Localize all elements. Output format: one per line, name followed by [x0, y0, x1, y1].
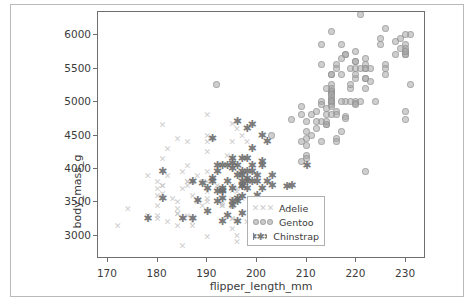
x-tick-label: 210 [296, 267, 316, 279]
data-point-chinstrap: ✱ [228, 197, 237, 206]
data-point-chinstrap: ✱ [228, 164, 237, 173]
data-point-gentoo [328, 95, 335, 102]
data-point-chinstrap: ✱ [228, 154, 237, 163]
data-point-gentoo [333, 111, 340, 118]
data-point-chinstrap: ✱ [258, 161, 267, 170]
data-point-adelie: ✕ [203, 233, 211, 241]
data-point-gentoo [303, 135, 310, 142]
legend-item-chinstrap[interactable]: ✱✱✱ Chinstrap [253, 229, 319, 243]
data-point-gentoo [402, 48, 409, 55]
data-point-adelie: ✕ [188, 222, 196, 230]
data-point-gentoo [323, 118, 330, 125]
data-point-gentoo [303, 118, 310, 125]
data-point-adelie: ✕ [228, 202, 236, 210]
data-point-adelie: ✕ [183, 138, 191, 146]
data-point-chinstrap: ✱ [248, 167, 257, 176]
data-point-chinstrap: ✱ [208, 174, 217, 183]
data-point-chinstrap: ✱ [258, 131, 267, 140]
data-point-adelie: ✕ [183, 182, 191, 190]
y-tick-mark [93, 34, 97, 35]
data-point-adelie: ✕ [218, 200, 226, 208]
data-point-adelie: ✕ [183, 162, 191, 170]
legend-item-adelie[interactable]: ✕✕✕ Adelie [253, 201, 319, 215]
data-point-adelie: ✕ [223, 152, 231, 160]
data-point-adelie: ✕ [203, 138, 211, 146]
data-point-gentoo [328, 111, 335, 118]
data-point-chinstrap: ✱ [213, 187, 222, 196]
data-point-adelie: ✕ [218, 202, 226, 210]
data-point-chinstrap: ✱ [238, 171, 247, 180]
y-axis-label-wrap: body_mass_g [52, 60, 66, 200]
data-point-adelie: ✕ [228, 138, 236, 146]
data-point-adelie: ✕ [169, 195, 177, 203]
data-point-gentoo [338, 55, 345, 62]
x-tick-label: 230 [395, 267, 415, 279]
data-point-gentoo [352, 58, 359, 65]
data-point-gentoo [362, 85, 369, 92]
data-point-chinstrap: ✱ [158, 194, 167, 203]
legend-item-gentoo[interactable]: Gentoo [253, 215, 319, 229]
data-point-adelie: ✕ [174, 210, 182, 218]
data-point-gentoo [377, 35, 384, 42]
data-point-chinstrap: ✱ [262, 177, 271, 186]
y-tick-label: 6000 [64, 28, 91, 40]
data-point-gentoo [318, 138, 325, 145]
data-point-adelie: ✕ [164, 218, 172, 226]
data-point-chinstrap: ✱ [248, 144, 257, 153]
data-point-gentoo [407, 81, 414, 88]
legend-label-adelie: Adelie [279, 203, 308, 214]
data-point-adelie: ✕ [228, 182, 236, 190]
data-point-chinstrap: ✱ [213, 167, 222, 176]
legend[interactable]: ✕✕✕ Adelie Gentoo ✱✱✱ Chinstrap [247, 196, 325, 246]
data-point-chinstrap: ✱ [258, 157, 267, 166]
data-point-adelie: ✕ [188, 178, 196, 186]
data-point-gentoo [318, 118, 325, 125]
data-point-gentoo [328, 28, 335, 35]
data-point-adelie: ✕ [203, 195, 211, 203]
data-point-chinstrap: ✱ [243, 167, 252, 176]
data-point-adelie: ✕ [154, 202, 162, 210]
data-point-gentoo [328, 98, 335, 105]
data-point-chinstrap: ✱ [233, 194, 242, 203]
data-point-gentoo [318, 98, 325, 105]
data-point-gentoo [352, 71, 359, 78]
data-point-gentoo [352, 100, 359, 107]
data-point-gentoo [298, 111, 305, 118]
data-point-gentoo [318, 61, 325, 68]
data-point-adelie: ✕ [178, 242, 186, 250]
y-tick-mark [93, 201, 97, 202]
data-point-chinstrap: ✱ [228, 201, 237, 210]
data-point-adelie: ✕ [159, 155, 167, 163]
data-point-chinstrap: ✱ [248, 161, 257, 170]
data-point-adelie: ✕ [203, 111, 211, 119]
data-point-chinstrap: ✱ [223, 177, 232, 186]
data-point-chinstrap: ✱ [253, 177, 262, 186]
data-point-gentoo [357, 12, 364, 18]
data-point-adelie: ✕ [203, 198, 211, 206]
data-point-gentoo [338, 71, 345, 78]
data-point-chinstrap: ✱ [243, 124, 252, 133]
data-point-gentoo [333, 65, 340, 72]
data-point-gentoo [402, 51, 409, 58]
data-point-adelie: ✕ [208, 178, 216, 186]
data-point-chinstrap: ✱ [282, 182, 291, 191]
data-point-chinstrap: ✱ [203, 184, 212, 193]
data-point-gentoo [328, 88, 335, 95]
data-point-gentoo [303, 155, 310, 162]
data-point-adelie: ✕ [144, 212, 152, 220]
data-point-chinstrap: ✱ [302, 161, 311, 170]
data-point-gentoo [397, 45, 404, 52]
data-point-gentoo [402, 41, 409, 48]
data-point-gentoo [377, 41, 384, 48]
data-point-gentoo [328, 95, 335, 102]
data-point-adelie: ✕ [198, 178, 206, 186]
data-point-adelie: ✕ [174, 198, 182, 206]
data-point-adelie: ✕ [238, 132, 246, 140]
data-point-chinstrap: ✱ [218, 194, 227, 203]
data-point-adelie: ✕ [114, 222, 122, 230]
x-tick-label: 170 [97, 267, 117, 279]
data-point-chinstrap: ✱ [243, 177, 252, 186]
data-point-chinstrap: ✱ [218, 217, 227, 226]
data-point-adelie: ✕ [154, 192, 162, 200]
data-point-gentoo [352, 101, 359, 108]
